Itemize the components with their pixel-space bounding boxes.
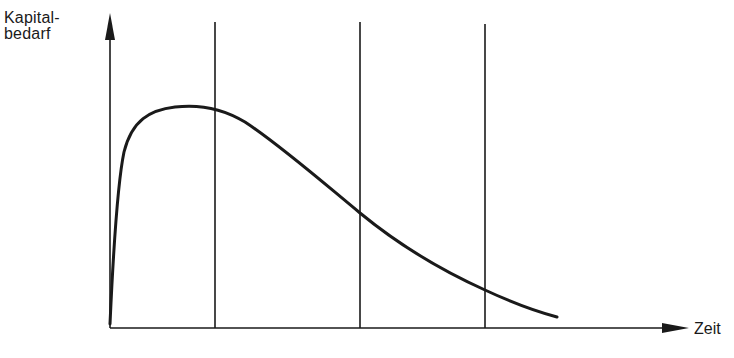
capital-requirement-diagram bbox=[0, 0, 734, 358]
x-axis-arrow-icon bbox=[662, 323, 689, 333]
capital-requirement-curve bbox=[110, 106, 557, 324]
y-axis-arrow-icon bbox=[105, 13, 115, 40]
